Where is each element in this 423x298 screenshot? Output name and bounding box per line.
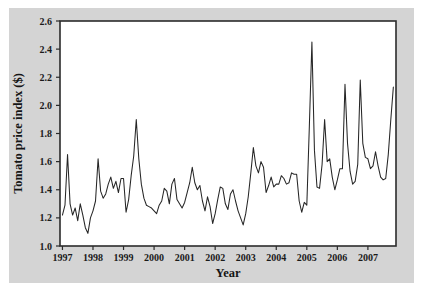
y-tick-label: 1.8 <box>40 128 53 139</box>
plot-area-background <box>60 21 396 246</box>
y-tick-label: 1.4 <box>40 184 53 195</box>
y-axis-tick-labels: 1.01.21.41.61.82.02.22.42.6 <box>40 16 53 252</box>
y-tick-label: 1.0 <box>40 241 53 252</box>
figure-root: 1.01.21.41.61.82.02.22.42.6 199719981999… <box>0 0 423 298</box>
x-tick-label: 1998 <box>83 252 103 263</box>
y-tick-label: 1.2 <box>40 212 53 223</box>
x-tick-label: 2004 <box>266 252 286 263</box>
y-tick-label: 2.4 <box>40 44 53 55</box>
x-axis-tick-labels: 1997199819992000200120022003200420052006… <box>52 252 377 263</box>
y-tick-label: 2.2 <box>40 72 53 83</box>
x-tick-label: 2002 <box>205 252 225 263</box>
y-tick-label: 1.6 <box>40 156 53 167</box>
x-tick-label: 2005 <box>297 252 317 263</box>
x-tick-label: 2006 <box>327 252 347 263</box>
x-tick-label: 2003 <box>236 252 256 263</box>
y-tick-label: 2.6 <box>40 16 53 27</box>
tomato-price-index-line-chart: 1.01.21.41.61.82.02.22.42.6 199719981999… <box>0 0 423 298</box>
y-axis-title: Tomato price index ($) <box>11 73 25 194</box>
x-tick-label: 2007 <box>358 252 378 263</box>
x-tick-label: 2000 <box>144 252 164 263</box>
x-tick-label: 2001 <box>175 252 195 263</box>
x-tick-label: 1999 <box>114 252 134 263</box>
x-axis-title: Year <box>216 266 241 280</box>
y-tick-label: 2.0 <box>40 100 53 111</box>
x-tick-label: 1997 <box>52 252 72 263</box>
